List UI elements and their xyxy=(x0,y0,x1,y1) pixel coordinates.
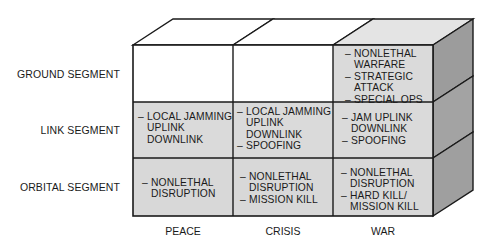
list-item-text: NONLETHAL xyxy=(151,177,214,188)
list-item: –SPECIAL OPS xyxy=(345,94,423,105)
list-item-continuation: DOWNLINK xyxy=(342,123,413,134)
list-item: –MISSION KILL xyxy=(240,194,318,205)
dash-bullet-icon: – xyxy=(138,111,147,122)
cell-orbital-crisis: –NONLETHALDISRUPTION–MISSION KILL xyxy=(240,171,318,205)
list-item-continuation: WARFARE xyxy=(345,59,423,70)
cell-orbital-peace: –NONLETHALDISRUPTION xyxy=(142,177,216,200)
list-item-text: NONLETHAL xyxy=(354,48,417,59)
dash-bullet-icon: – xyxy=(237,106,246,117)
list-item-text: MISSION KILL xyxy=(249,194,318,205)
list-item: –SPOOFING xyxy=(342,135,413,146)
list-item-text: SPOOFING xyxy=(351,135,406,146)
cell-link-peace: –LOCAL JAMMINGUPLINKDOWNLINK xyxy=(138,111,232,145)
list-item-continuation: DISRUPTION xyxy=(240,182,318,193)
list-item-text: JAM UPLINK xyxy=(351,112,413,123)
list-item-continuation: UPLINK xyxy=(138,122,232,133)
row-label-orbital-segment: ORBITAL SEGMENT xyxy=(0,181,120,193)
column-label-peace: PEACE xyxy=(133,225,233,237)
list-item: –NONLETHAL xyxy=(341,167,419,178)
list-item: –NONLETHAL xyxy=(142,177,216,188)
cell-link-war: –JAM UPLINKDOWNLINK–SPOOFING xyxy=(342,112,413,146)
cell-orbital-war: –NONLETHALDISRUPTION–HARD KILL/MISSION K… xyxy=(341,167,419,213)
list-item-text: NONLETHAL xyxy=(249,171,312,182)
list-item-continuation: MISSION KILL xyxy=(341,201,419,212)
list-item: –LOCAL JAMMING xyxy=(237,106,331,117)
list-item-text: HARD KILL/ xyxy=(350,190,407,201)
dash-bullet-icon: – xyxy=(341,190,350,201)
dash-bullet-icon: – xyxy=(341,167,350,178)
list-item: –JAM UPLINK xyxy=(342,112,413,123)
list-item-text: SPECIAL OPS xyxy=(354,94,423,105)
dash-bullet-icon: – xyxy=(342,135,351,146)
list-item-text: NONLETHAL xyxy=(350,167,413,178)
dash-bullet-icon: – xyxy=(240,171,249,182)
list-item-continuation: DISRUPTION xyxy=(341,178,419,189)
list-item-text: SPOOFING xyxy=(246,140,301,151)
list-item: –STRATEGIC xyxy=(345,71,423,82)
list-item-text: STRATEGIC xyxy=(354,71,413,82)
list-item-continuation: DOWNLINK xyxy=(138,134,232,145)
cell-ground-war: –NONLETHALWARFARE–STRATEGICATTACK–SPECIA… xyxy=(345,48,423,105)
cell-link-crisis: –LOCAL JAMMINGUPLINKDOWNLINK–SPOOFING xyxy=(237,106,331,152)
row-label-ground-segment: GROUND SEGMENT xyxy=(0,68,120,80)
dash-bullet-icon: – xyxy=(345,48,354,59)
list-item-continuation: DOWNLINK xyxy=(237,129,331,140)
list-item: –LOCAL JAMMING xyxy=(138,111,232,122)
list-item-text: LOCAL JAMMING xyxy=(246,106,331,117)
list-item: –NONLETHAL xyxy=(240,171,318,182)
row-label-link-segment: LINK SEGMENT xyxy=(0,124,120,136)
cell-bg-ground-crisis xyxy=(233,45,333,102)
list-item-text: LOCAL JAMMING xyxy=(147,111,232,122)
list-item-continuation: UPLINK xyxy=(237,117,331,128)
list-item: –HARD KILL/ xyxy=(341,190,419,201)
dash-bullet-icon: – xyxy=(345,94,354,105)
list-item: –NONLETHAL xyxy=(345,48,423,59)
dash-bullet-icon: – xyxy=(345,71,354,82)
column-label-war: WAR xyxy=(333,225,433,237)
dash-bullet-icon: – xyxy=(240,194,249,205)
cell-bg-ground-peace xyxy=(133,45,233,102)
column-label-crisis: CRISIS xyxy=(233,225,333,237)
dash-bullet-icon: – xyxy=(237,140,246,151)
dash-bullet-icon: – xyxy=(342,112,351,123)
list-item-continuation: DISRUPTION xyxy=(142,188,216,199)
list-item: –SPOOFING xyxy=(237,140,331,151)
list-item-continuation: ATTACK xyxy=(345,82,423,93)
dash-bullet-icon: – xyxy=(142,177,151,188)
